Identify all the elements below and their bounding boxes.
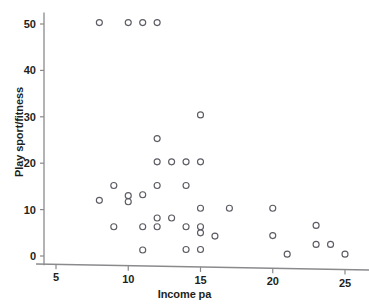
scatter-plot-figure: Play sport/fitness Income pa 01020304050… — [0, 0, 369, 308]
data-point — [183, 159, 189, 165]
data-point — [342, 251, 348, 257]
data-point — [154, 224, 160, 230]
data-point — [212, 233, 218, 239]
x-tick-label: 5 — [53, 271, 59, 283]
y-axis: 01020304050 — [24, 12, 44, 265]
y-tick-label: 40 — [24, 64, 36, 76]
y-tick-label: 50 — [24, 18, 36, 30]
data-point — [328, 241, 334, 247]
plot-canvas: 01020304050 510152025 — [0, 0, 369, 308]
data-point — [154, 182, 160, 188]
data-point — [183, 182, 189, 188]
data-point — [140, 224, 146, 230]
data-point — [169, 159, 175, 165]
data-point — [284, 251, 290, 257]
data-point — [226, 205, 232, 211]
data-point — [313, 222, 319, 228]
data-point — [125, 193, 131, 199]
x-tick-label: 25 — [339, 277, 351, 289]
data-point — [169, 215, 175, 221]
data-point — [140, 20, 146, 26]
data-point — [96, 20, 102, 26]
data-point — [198, 112, 204, 118]
data-point — [198, 230, 204, 236]
data-point — [198, 159, 204, 165]
data-point — [111, 224, 117, 230]
data-points — [96, 20, 348, 258]
data-point — [183, 247, 189, 253]
y-tick-label: 30 — [24, 111, 36, 123]
y-tick-label: 20 — [24, 157, 36, 169]
data-point — [198, 205, 204, 211]
data-point — [183, 224, 189, 230]
data-point — [154, 136, 160, 142]
data-point — [313, 241, 319, 247]
data-point — [154, 20, 160, 26]
data-point — [140, 192, 146, 198]
data-point — [96, 197, 102, 203]
x-tick-label: 20 — [267, 275, 279, 287]
data-point — [154, 215, 160, 221]
data-point — [140, 247, 146, 253]
y-tick-label: 10 — [24, 204, 36, 216]
data-point — [154, 159, 160, 165]
y-tick-label: 0 — [30, 250, 36, 262]
data-point — [111, 182, 117, 188]
x-axis: 510152025 — [36, 264, 369, 289]
x-tick-label: 15 — [194, 274, 206, 286]
data-point — [198, 247, 204, 253]
x-tick-label: 10 — [122, 273, 134, 285]
data-point — [270, 205, 276, 211]
data-point — [125, 199, 131, 205]
data-point — [270, 233, 276, 239]
data-point — [125, 20, 131, 26]
data-point — [198, 224, 204, 230]
